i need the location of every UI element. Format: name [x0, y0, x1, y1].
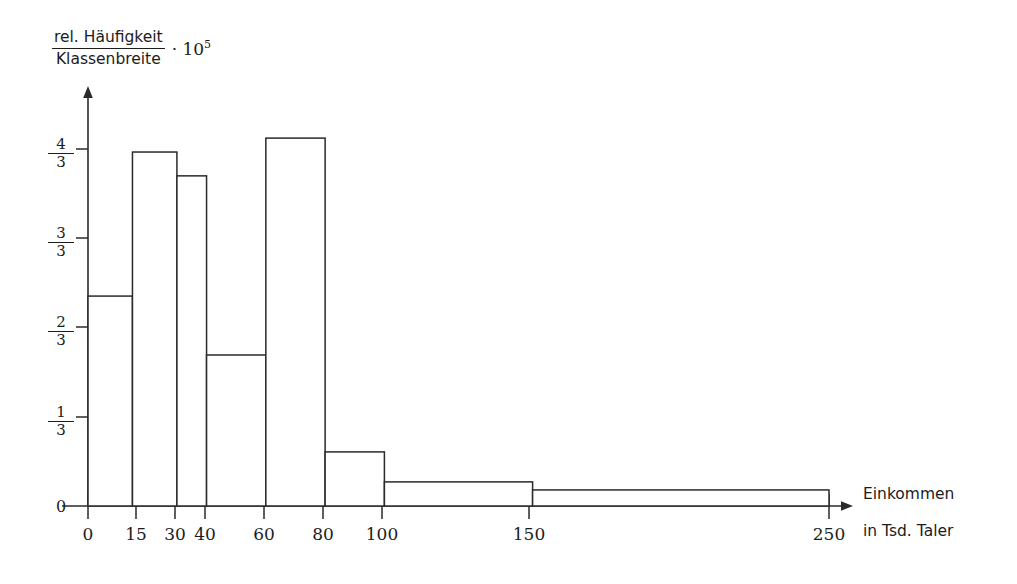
- histogram-bars: [88, 138, 829, 506]
- y-axis-ticks: [76, 149, 88, 417]
- histogram-bar: [132, 152, 176, 506]
- histogram-bar: [325, 452, 384, 506]
- plot-area: [0, 0, 1017, 584]
- histogram-bar: [88, 296, 132, 506]
- histogram-bar: [177, 176, 207, 506]
- histogram-bar: [207, 355, 266, 506]
- histogram-chart: rel. Häufigkeit Klassenbreite · 105 4 3 …: [0, 0, 1017, 584]
- histogram-bar: [384, 482, 532, 506]
- histogram-bar: [533, 490, 829, 506]
- histogram-bar: [266, 138, 325, 506]
